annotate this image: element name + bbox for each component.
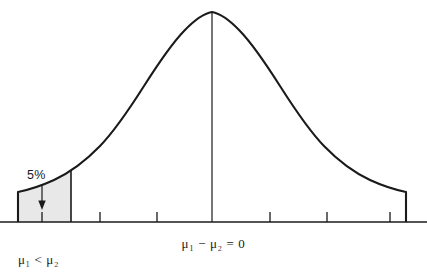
- normal-distribution-chart: [0, 0, 427, 275]
- statistical-distribution-figure: 5% μ₁ − μ₂ = 0 μ₁ < μ₂: [0, 0, 427, 275]
- rejection-region-percent-label: 5%: [27, 168, 45, 182]
- null-hypothesis-label: μ₁ − μ₂ = 0: [0, 236, 427, 252]
- axis-tick-group: [42, 212, 390, 222]
- alternative-hypothesis-label: μ₁ < μ₂: [18, 252, 59, 268]
